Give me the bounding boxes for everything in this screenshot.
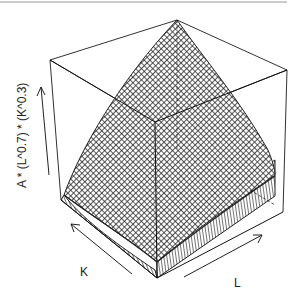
surface-plot: A * (L^0.7) * (K^0.3) K L: [0, 0, 302, 300]
z-axis-label: A * (L^0.7) * (K^0.3): [15, 83, 29, 188]
l-axis-label: L: [234, 276, 241, 290]
surface-mesh: [64, 20, 275, 262]
k-axis-label: K: [80, 265, 88, 279]
z-axis-arrow: [37, 87, 49, 175]
